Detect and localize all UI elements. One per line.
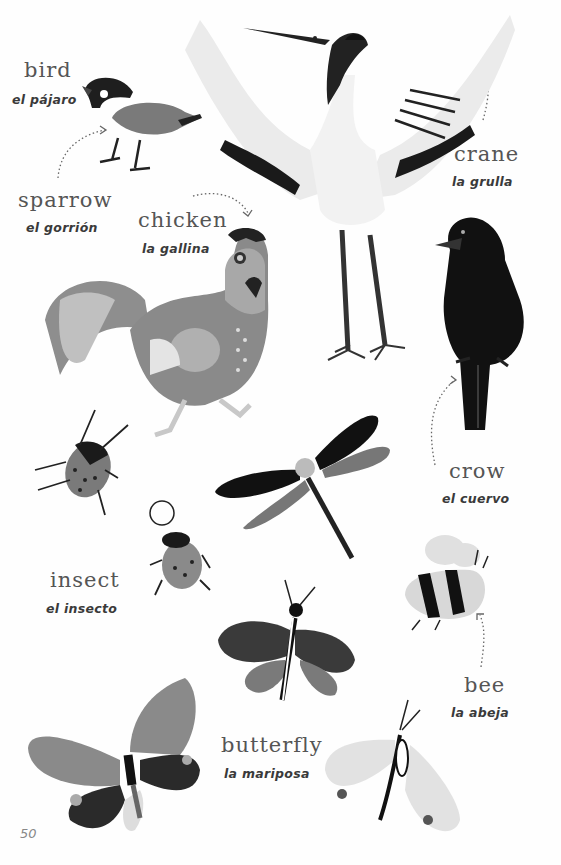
dragonfly-illustration — [215, 416, 390, 558]
label-bee-spanish: la abeja — [451, 705, 509, 720]
label-chicken-spanish: la gallina — [142, 241, 210, 256]
label-chicken-english: chicken — [138, 208, 227, 232]
sparrow-illustration — [82, 78, 202, 170]
butterfly-illustration — [28, 678, 200, 831]
label-bird-english: bird — [24, 58, 72, 82]
page-number: 50 — [20, 826, 37, 841]
white-moth-illustration — [325, 700, 460, 831]
label-butterfly-english: butterfly — [221, 733, 323, 757]
label-sparrow-spanish: el gorrión — [26, 220, 98, 235]
label-butterfly-spanish: la mariposa — [224, 766, 310, 781]
beetle-illustration — [35, 410, 128, 515]
book-page: bird el pájaro sparrow el gorrión chicke… — [0, 0, 561, 865]
label-crane-english: crane — [454, 142, 519, 166]
bug-illustration — [150, 501, 210, 595]
label-sparrow-english: sparrow — [18, 188, 112, 212]
label-bird-spanish: el pájaro — [12, 92, 77, 107]
label-crane-spanish: la grulla — [452, 174, 513, 189]
label-insect-english: insect — [50, 568, 120, 592]
bee-illustration — [405, 535, 488, 630]
moth-illustration — [218, 580, 355, 700]
label-bee-english: bee — [464, 673, 505, 697]
label-insect-spanish: el insecto — [46, 601, 117, 616]
label-crow-spanish: el cuervo — [442, 491, 510, 506]
chicken-illustration — [45, 228, 268, 435]
label-crow-english: crow — [449, 459, 505, 483]
crow-illustration — [435, 217, 524, 430]
